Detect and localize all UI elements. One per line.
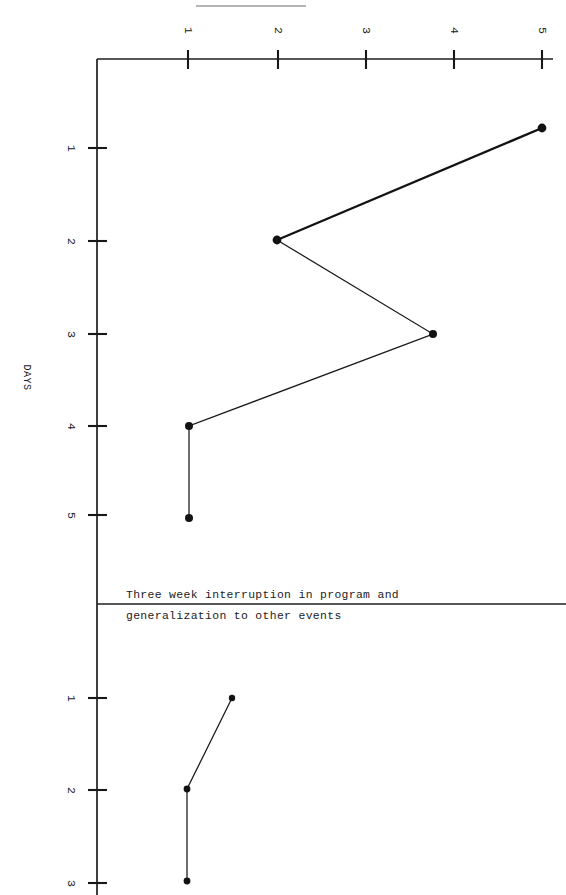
day-axis-label-p1-4: 4 — [65, 420, 78, 434]
series-phase-two-markers — [184, 695, 236, 885]
day-axis-label-p2-2: 2 — [65, 784, 78, 798]
annotation-line-1: Three week interruption in program and — [126, 585, 399, 606]
value-axis-label-5: 5 — [536, 24, 549, 38]
data-point-p1-day5 — [185, 514, 193, 522]
data-point-p1-day2 — [273, 236, 282, 245]
data-point-p1-day1 — [538, 124, 547, 133]
series-phase-two — [187, 698, 232, 881]
day-axis-label-p1-2: 2 — [65, 235, 78, 249]
series-phase-one-markers — [185, 124, 546, 522]
day-axis-label-p1-3: 3 — [65, 328, 78, 342]
chart-canvas — [0, 0, 566, 895]
series-phase-one-segment-2 — [189, 240, 433, 518]
day-axis-label-p1-1: 1 — [65, 142, 78, 156]
data-point-p2-day2 — [184, 786, 191, 793]
day-axis-label-p2-3: 3 — [65, 877, 78, 891]
day-axis-title: DAYS — [21, 358, 32, 398]
value-axis-label-3: 3 — [360, 24, 373, 38]
value-axis-label-2: 2 — [272, 24, 285, 38]
value-axis-label-4: 4 — [448, 24, 461, 38]
rotated-line-chart-figure: 1 2 3 4 5 1 2 3 4 5 1 2 3 DAYS Three wee… — [0, 0, 566, 895]
data-point-p2-day1 — [229, 695, 235, 701]
data-point-p2-day3 — [184, 878, 191, 885]
day-axis-label-p1-5: 5 — [65, 509, 78, 523]
data-point-p1-day4 — [185, 422, 193, 430]
value-axis-label-1: 1 — [182, 24, 195, 38]
annotation-line-2: generalization to other events — [126, 606, 342, 627]
series-phase-one-segment-1 — [277, 128, 542, 240]
day-axis-label-p2-1: 1 — [65, 692, 78, 706]
data-point-p1-day3 — [429, 330, 437, 338]
